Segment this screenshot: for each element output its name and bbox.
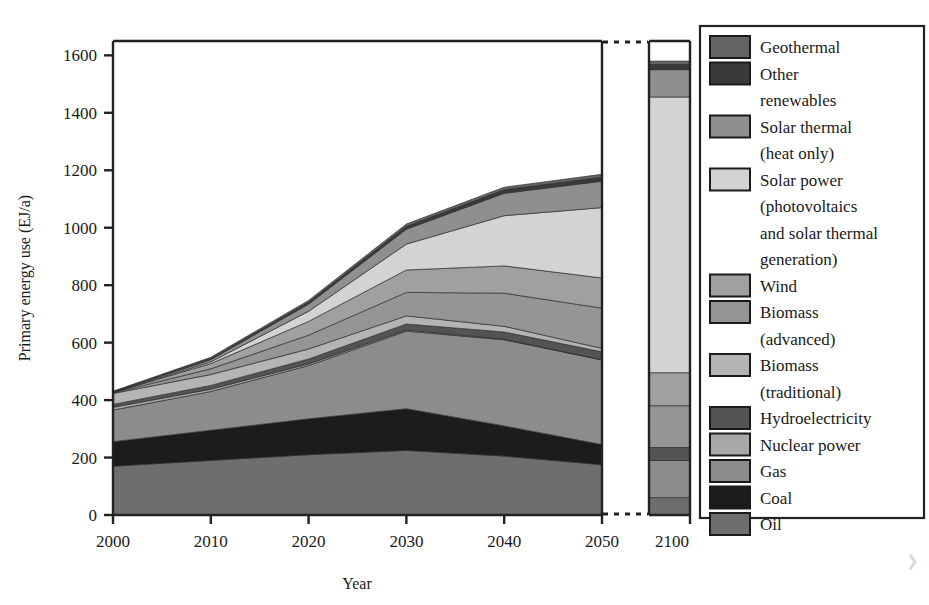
bar2100-biomass-advanced xyxy=(649,406,690,448)
legend-swatch xyxy=(710,169,750,191)
bar2100-solar-power-photovoltaics-and-solar-thermal-generation xyxy=(649,97,690,373)
x-axis-title: Year xyxy=(342,575,372,592)
legend-swatch xyxy=(710,116,750,138)
legend-label: Biomass xyxy=(760,303,819,322)
legend-label: (photovoltaics xyxy=(760,197,857,216)
primary-energy-use-area-chart: 02004006008001000120014001600 2000201020… xyxy=(0,0,929,605)
legend-swatch xyxy=(710,275,750,297)
legend-swatch xyxy=(710,513,750,535)
x-tick-label: 2050 xyxy=(585,532,619,551)
legend-swatch xyxy=(710,63,750,85)
legend-label: generation) xyxy=(760,250,837,269)
bar2100-solar-thermal-heat-only xyxy=(649,70,690,97)
legend-label: Oil xyxy=(760,515,782,534)
bar2100-gas xyxy=(649,460,690,497)
x-tick-label: 2020 xyxy=(292,532,326,551)
bar2100-hydroelectricity xyxy=(649,448,690,461)
legend-label: Coal xyxy=(760,489,792,508)
y-tick-label: 1400 xyxy=(63,104,97,123)
legend-label: Wind xyxy=(760,277,798,296)
legend-swatch xyxy=(710,301,750,323)
legend-label: Geothermal xyxy=(760,38,841,57)
legend-swatch xyxy=(710,354,750,376)
y-tick-label: 1000 xyxy=(63,219,97,238)
x-tick-label: 2040 xyxy=(487,532,521,551)
y-tick-label: 200 xyxy=(72,449,98,468)
legend-label: Gas xyxy=(760,462,786,481)
legend-swatch xyxy=(710,460,750,482)
legend-label: Solar power xyxy=(760,171,843,190)
y-tick-label: 1200 xyxy=(63,161,97,180)
bar2100-geothermal xyxy=(649,61,690,64)
bar2100-wind xyxy=(649,373,690,406)
legend-swatch xyxy=(710,434,750,456)
legend-label: Biomass xyxy=(760,356,819,375)
legend-label: Nuclear power xyxy=(760,436,861,455)
legend-label: Hydroelectricity xyxy=(760,409,872,428)
legend-label: and solar thermal xyxy=(760,224,878,243)
x-tick-label: 2030 xyxy=(389,532,423,551)
legend-label: (heat only) xyxy=(760,144,834,163)
y-tick-label: 0 xyxy=(89,506,98,525)
x-tick-label: 2000 xyxy=(96,532,130,551)
legend-label: Other xyxy=(760,65,799,84)
y-tick-label: 400 xyxy=(72,391,98,410)
stacked-bar-2100 xyxy=(649,61,690,515)
y-tick-label: 600 xyxy=(72,334,98,353)
legend-label: renewables xyxy=(760,91,836,110)
bar2100-other-renewables xyxy=(649,65,690,70)
y-tick-label: 1600 xyxy=(63,46,97,65)
legend-swatch xyxy=(710,36,750,58)
y-axis-title: Primary energy use (EJ/a) xyxy=(16,195,34,361)
x-tick-label: 2010 xyxy=(194,532,228,551)
x-tick-label-2100: 2100 xyxy=(655,532,689,551)
legend-swatch xyxy=(710,487,750,509)
page-artifact-mark: ❯ xyxy=(906,553,919,570)
bar2100-oil xyxy=(649,498,690,515)
legend-label: Solar thermal xyxy=(760,118,852,137)
legend-label: (traditional) xyxy=(760,383,841,402)
y-tick-label: 800 xyxy=(72,276,98,295)
legend-swatch xyxy=(710,407,750,429)
legend-label: (advanced) xyxy=(760,330,836,349)
